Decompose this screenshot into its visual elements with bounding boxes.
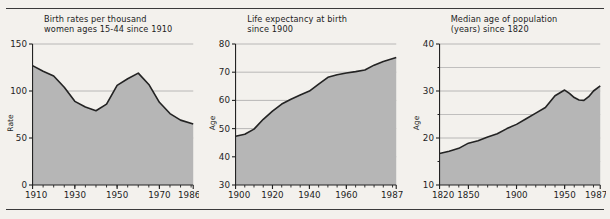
svg-text:1987: 1987 <box>381 190 402 200</box>
svg-text:1910: 1910 <box>25 190 47 200</box>
svg-text:20: 20 <box>422 133 433 143</box>
chart-title-line2: since 1900 <box>247 24 402 34</box>
svg-text:1940: 1940 <box>299 190 321 200</box>
svg-text:0: 0 <box>21 180 27 190</box>
chart-title-life-expectancy: Life expectancy at birth since 1900 <box>203 14 402 34</box>
chart-title-birth-rates: Birth rates per thousand women ages 15-4… <box>0 14 199 34</box>
svg-text:70: 70 <box>219 67 230 77</box>
svg-text:30: 30 <box>219 180 230 190</box>
chart-row: Birth rates per thousand women ages 15-4… <box>0 12 610 207</box>
svg-text:10: 10 <box>422 180 433 190</box>
chart-title-median-age: Median age of population (years) since 1… <box>407 14 606 34</box>
chart-title-line2: (years) since 1820 <box>451 24 606 34</box>
plot-area-life-expectancy: Age 30405060708019001920194019601987 <box>203 38 402 207</box>
svg-text:40: 40 <box>219 152 230 162</box>
svg-text:80: 80 <box>219 39 230 49</box>
svg-text:1920: 1920 <box>262 190 284 200</box>
svg-text:1970: 1970 <box>148 190 170 200</box>
svg-text:1960: 1960 <box>336 190 358 200</box>
chart-svg-median-age: 1020304018201850190019501987 <box>407 38 606 207</box>
chart-panel-life-expectancy: Life expectancy at birth since 1900 Age … <box>203 12 406 207</box>
svg-text:100: 100 <box>10 86 27 96</box>
svg-text:60: 60 <box>219 96 230 106</box>
svg-text:1950: 1950 <box>553 190 575 200</box>
chart-title-line1: Birth rates per thousand <box>44 14 147 24</box>
svg-text:30: 30 <box>422 86 433 96</box>
svg-text:50: 50 <box>16 133 27 143</box>
page-rule-top <box>6 8 604 9</box>
svg-text:1850: 1850 <box>457 190 479 200</box>
page-rule-bottom <box>6 209 604 210</box>
svg-text:1820: 1820 <box>432 190 454 200</box>
plot-area-birth-rates: Rate 05010015019101930195019701986 <box>0 38 199 207</box>
chart-svg-birth-rates: 05010015019101930195019701986 <box>0 38 199 207</box>
scanned-page: Birth rates per thousand women ages 15-4… <box>0 0 610 219</box>
svg-text:40: 40 <box>422 39 433 49</box>
svg-text:1900: 1900 <box>505 190 527 200</box>
svg-text:50: 50 <box>219 124 230 134</box>
svg-text:1930: 1930 <box>64 190 86 200</box>
svg-text:150: 150 <box>10 39 27 49</box>
svg-text:1900: 1900 <box>228 190 250 200</box>
chart-panel-median-age: Median age of population (years) since 1… <box>407 12 610 207</box>
chart-title-line1: Life expectancy at birth <box>247 14 347 24</box>
svg-text:1950: 1950 <box>106 190 128 200</box>
chart-svg-life-expectancy: 30405060708019001920194019601987 <box>203 38 402 207</box>
svg-text:1987: 1987 <box>585 190 606 200</box>
chart-title-line1: Median age of population <box>451 14 558 24</box>
chart-panel-birth-rates: Birth rates per thousand women ages 15-4… <box>0 12 203 207</box>
plot-area-median-age: Age 1020304018201850190019501987 <box>407 38 606 207</box>
svg-text:1986: 1986 <box>178 190 199 200</box>
chart-title-line2: women ages 15-44 since 1910 <box>44 24 199 34</box>
